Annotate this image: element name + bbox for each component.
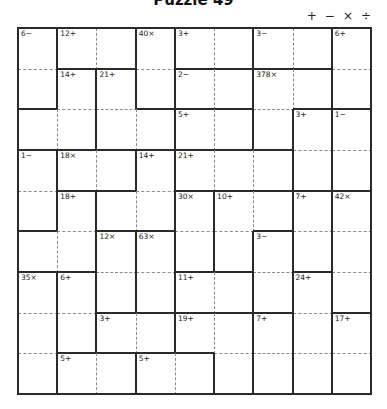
cage-clue: 42× bbox=[335, 192, 351, 202]
grid-cell[interactable]: 3− bbox=[253, 28, 293, 70]
grid-cell[interactable] bbox=[96, 28, 136, 70]
grid-cell[interactable]: 7+ bbox=[293, 191, 333, 233]
grid-cell[interactable] bbox=[214, 69, 254, 111]
grid-cell[interactable] bbox=[253, 353, 293, 395]
cage-clue: 6+ bbox=[335, 29, 346, 39]
grid-cell[interactable]: 30× bbox=[175, 191, 215, 233]
grid-cell[interactable] bbox=[293, 313, 333, 355]
grid-cell[interactable] bbox=[136, 191, 176, 233]
grid-cell[interactable]: 19+ bbox=[175, 313, 215, 355]
grid-cell[interactable] bbox=[214, 150, 254, 192]
cage-clue: 18+ bbox=[60, 192, 76, 202]
grid-cell[interactable]: 63× bbox=[136, 231, 176, 273]
grid-cell[interactable] bbox=[57, 313, 97, 355]
grid-cell[interactable]: 5+ bbox=[57, 353, 97, 395]
grid-cell[interactable]: 12+ bbox=[57, 28, 97, 70]
grid-cell[interactable]: 3− bbox=[253, 231, 293, 273]
grid-cell[interactable] bbox=[214, 109, 254, 151]
cage-clue: 3− bbox=[256, 29, 267, 39]
grid-cell[interactable] bbox=[332, 69, 372, 111]
grid-cell[interactable]: 11+ bbox=[175, 272, 215, 314]
grid-cell[interactable]: 3+ bbox=[175, 28, 215, 70]
grid-cell[interactable]: 1− bbox=[332, 109, 372, 151]
grid-cell[interactable] bbox=[96, 272, 136, 314]
grid-cell[interactable]: 10+ bbox=[214, 191, 254, 233]
grid-cell[interactable] bbox=[332, 150, 372, 192]
grid-cell[interactable] bbox=[214, 313, 254, 355]
grid-cell[interactable]: 35× bbox=[18, 272, 58, 314]
cage-clue: 5+ bbox=[139, 354, 150, 364]
grid-cell[interactable]: 42× bbox=[332, 191, 372, 233]
grid-cell[interactable]: 18+ bbox=[57, 191, 97, 233]
grid-cell[interactable] bbox=[332, 353, 372, 395]
grid-cell[interactable] bbox=[96, 109, 136, 151]
grid-cell[interactable] bbox=[136, 313, 176, 355]
grid-cell[interactable] bbox=[18, 313, 58, 355]
grid-cell[interactable]: 40× bbox=[136, 28, 176, 70]
grid-cell[interactable] bbox=[332, 272, 372, 314]
grid-cell[interactable] bbox=[96, 150, 136, 192]
cage-clue: 12+ bbox=[60, 29, 76, 39]
grid-cell[interactable]: 6+ bbox=[332, 28, 372, 70]
grid-cell[interactable] bbox=[18, 109, 58, 151]
cage-clue: 12× bbox=[99, 232, 115, 242]
cage-clue: 21+ bbox=[99, 70, 115, 80]
grid-cell[interactable] bbox=[175, 231, 215, 273]
grid-cell[interactable]: 14+ bbox=[57, 69, 97, 111]
grid-cell[interactable] bbox=[253, 150, 293, 192]
grid-cell[interactable]: 18× bbox=[57, 150, 97, 192]
cage-clue: 35× bbox=[21, 273, 37, 283]
grid-cell[interactable]: 24+ bbox=[293, 272, 333, 314]
grid-cell[interactable] bbox=[293, 150, 333, 192]
grid-cell[interactable]: 1− bbox=[18, 150, 58, 192]
grid-cell[interactable] bbox=[293, 231, 333, 273]
grid-cell[interactable] bbox=[57, 109, 97, 151]
grid-cell[interactable] bbox=[136, 69, 176, 111]
cage-clue: 3− bbox=[256, 232, 267, 242]
grid-cell[interactable] bbox=[136, 272, 176, 314]
grid-cell[interactable]: 7+ bbox=[253, 313, 293, 355]
grid-cell[interactable]: 3+ bbox=[96, 313, 136, 355]
puzzle-title: Puzzle 49 bbox=[0, 0, 387, 9]
grid-cell[interactable] bbox=[18, 69, 58, 111]
grid-cell[interactable]: 17+ bbox=[332, 313, 372, 355]
grid-cell[interactable] bbox=[18, 353, 58, 395]
grid-cell[interactable] bbox=[332, 231, 372, 273]
cage-clue: 11+ bbox=[178, 273, 194, 283]
grid-cell[interactable]: 12× bbox=[96, 231, 136, 273]
grid-cell[interactable]: 21+ bbox=[175, 150, 215, 192]
grid-cell[interactable] bbox=[136, 109, 176, 151]
grid-cell[interactable] bbox=[18, 191, 58, 233]
grid-cell[interactable] bbox=[214, 28, 254, 70]
grid-cell[interactable] bbox=[214, 353, 254, 395]
grid-cell[interactable]: 21+ bbox=[96, 69, 136, 111]
grid-cell[interactable]: 6+ bbox=[57, 272, 97, 314]
grid-cell[interactable] bbox=[293, 69, 333, 111]
grid-cell[interactable] bbox=[214, 231, 254, 273]
grid-cell[interactable] bbox=[253, 272, 293, 314]
kenken-grid: 6−12+40×3+3−6+14+21+2−378×5+3+1−1−18×14+… bbox=[18, 28, 371, 394]
grid-cell[interactable]: 6− bbox=[18, 28, 58, 70]
grid-cell[interactable]: 14+ bbox=[136, 150, 176, 192]
grid-cell[interactable] bbox=[253, 109, 293, 151]
times-icon: × bbox=[343, 9, 353, 23]
grid-cell[interactable] bbox=[57, 231, 97, 273]
grid-cell[interactable] bbox=[253, 191, 293, 233]
grid-cell[interactable]: 5+ bbox=[136, 353, 176, 395]
cage-clue: 3+ bbox=[99, 314, 110, 324]
cage-clue: 2− bbox=[178, 70, 189, 80]
grid-cell[interactable] bbox=[96, 353, 136, 395]
cage-clue: 17+ bbox=[335, 314, 351, 324]
grid-cell[interactable] bbox=[175, 353, 215, 395]
grid-cell[interactable]: 378× bbox=[253, 69, 293, 111]
grid-cell[interactable]: 2− bbox=[175, 69, 215, 111]
grid-cell[interactable] bbox=[293, 353, 333, 395]
grid-cell[interactable] bbox=[293, 28, 333, 70]
grid-cell[interactable] bbox=[214, 272, 254, 314]
plus-icon: + bbox=[307, 9, 317, 23]
grid-cell[interactable]: 5+ bbox=[175, 109, 215, 151]
cage-clue: 6− bbox=[21, 29, 32, 39]
grid-cell[interactable] bbox=[18, 231, 58, 273]
grid-cell[interactable]: 3+ bbox=[293, 109, 333, 151]
grid-cell[interactable] bbox=[96, 191, 136, 233]
